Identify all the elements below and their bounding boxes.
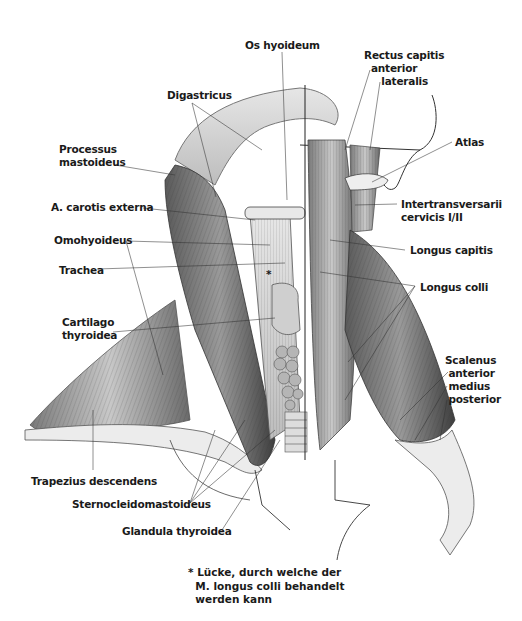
label-a-carotis-externa: A. carotis externa: [51, 201, 153, 214]
anatomy-figure: Os hyoideum Rectus capitis anterior late…: [0, 0, 522, 621]
label-sternocleidomastoideus: Sternocleidomastoideus: [72, 498, 211, 511]
trachea-rings: [285, 412, 307, 452]
neck-muscle-illustration: [0, 0, 522, 621]
hyoid-bone: [245, 207, 305, 219]
label-digastricus: Digastricus: [167, 89, 232, 102]
clavicle-left: [25, 425, 262, 474]
label-cartilago-thyroidea: Cartilago thyroidea: [62, 316, 117, 342]
label-glandula-thyroidea: Glandula thyroidea: [122, 525, 232, 538]
label-omohyoideus: Omohyoideus: [54, 234, 132, 247]
atlas: [345, 174, 388, 190]
label-os-hyoideum: Os hyoideum: [245, 39, 320, 52]
label-rectus-capitis-anterior-lateralis: Rectus capitis anterior lateralis: [364, 49, 444, 88]
label-scalenus: Scalenus anterior medius posterior: [445, 354, 501, 406]
label-trapezius-descendens: Trapezius descendens: [31, 475, 157, 488]
clavicle-right: [395, 430, 474, 555]
thyroid-cartilage: [272, 283, 300, 334]
asterisk-marker: *: [266, 268, 271, 281]
label-processus-mastoideus: Processus mastoideus: [59, 143, 125, 169]
label-longus-capitis: Longus capitis: [410, 244, 493, 257]
label-atlas: Atlas: [455, 136, 484, 149]
thorax-outline: [255, 460, 370, 560]
label-longus-colli: Longus colli: [420, 281, 488, 294]
label-intertransversarii: Intertransversarii cervicis I/II: [401, 198, 502, 224]
label-trachea: Trachea: [59, 264, 104, 277]
footnote: * Lücke, durch welche der M. longus coll…: [188, 566, 344, 607]
